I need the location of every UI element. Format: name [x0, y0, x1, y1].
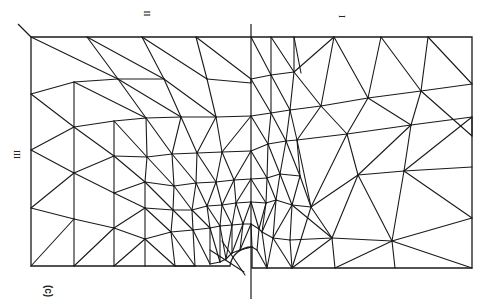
mesh-edge — [114, 193, 145, 208]
mesh-edge — [114, 118, 146, 121]
mesh-edge — [392, 241, 395, 268]
mesh-edge — [276, 200, 292, 205]
mesh-edge — [268, 113, 271, 144]
mesh-edge — [220, 205, 222, 226]
mesh-edge — [146, 118, 147, 157]
mesh-edge — [332, 238, 392, 241]
mesh-edge — [268, 144, 280, 174]
region-label-iii: III — [12, 150, 21, 159]
mesh-edge — [271, 72, 294, 75]
mesh-edge — [290, 72, 294, 110]
mesh-edge — [262, 232, 273, 238]
mesh-edge — [192, 206, 207, 210]
mesh-edge — [280, 174, 300, 176]
mesh-edge — [421, 37, 428, 91]
mesh-edge — [297, 106, 321, 140]
mesh-edge — [286, 140, 297, 141]
mesh-edge — [292, 176, 300, 205]
mesh-edge — [358, 125, 411, 175]
mesh-edge — [335, 241, 392, 268]
mesh-edge — [251, 116, 268, 144]
mesh-edge — [173, 186, 174, 210]
mesh-edge — [145, 182, 173, 210]
mesh-edge — [273, 238, 292, 268]
mesh-edge — [251, 113, 271, 116]
mesh-edge — [232, 224, 243, 225]
mesh-edge — [145, 182, 174, 186]
mesh-edge — [216, 182, 222, 205]
mesh-edge — [236, 179, 251, 203]
mesh-edge — [196, 182, 216, 183]
mesh-edge — [74, 127, 114, 156]
mesh-edge — [74, 173, 114, 193]
mesh-edge — [31, 37, 118, 79]
region-label-ii: II — [142, 11, 151, 17]
mesh-edge — [381, 37, 421, 91]
mesh-edge — [145, 208, 173, 210]
mesh-edge — [294, 37, 301, 73]
mesh-edge — [145, 239, 175, 266]
mesh-edge — [31, 219, 74, 266]
mesh-edge — [222, 151, 251, 152]
mesh-edge — [118, 79, 146, 118]
mesh-edge — [311, 134, 347, 207]
mesh-edge — [251, 151, 267, 178]
mesh-edge — [267, 144, 268, 178]
mesh-edge — [210, 228, 220, 262]
mesh-edge — [207, 182, 216, 206]
mesh-edge — [251, 144, 268, 151]
mesh-edge — [196, 153, 197, 183]
mesh-edge — [193, 230, 210, 264]
mesh-edge — [404, 171, 472, 218]
mesh-edge — [147, 154, 172, 157]
mesh-edge — [145, 232, 171, 239]
mesh-edge — [404, 167, 472, 171]
mesh-edge — [273, 205, 292, 238]
mesh-edge — [146, 117, 181, 118]
mesh-edge — [114, 208, 145, 228]
finite-element-mesh — [0, 0, 483, 307]
mesh-edge — [74, 219, 114, 228]
mesh-edge — [251, 37, 271, 75]
mesh-edge — [172, 154, 174, 186]
mesh-edge — [251, 178, 267, 179]
mesh-edge — [222, 152, 234, 180]
mesh-edge — [192, 210, 210, 228]
mesh-edge — [87, 37, 118, 79]
mesh-edge — [114, 182, 145, 193]
mesh-edge — [210, 226, 220, 228]
mesh-edge — [321, 98, 368, 106]
mesh-edge — [222, 203, 236, 205]
mesh-edge — [31, 94, 74, 127]
mesh-edge — [210, 262, 220, 264]
mesh-edge — [216, 180, 234, 182]
mesh-edge — [216, 117, 222, 152]
mesh-edge — [234, 180, 236, 203]
mesh-edge — [290, 106, 321, 110]
mesh-edge — [290, 240, 292, 268]
mesh-edge — [74, 228, 114, 266]
mesh-edge — [31, 173, 74, 208]
mesh-edge — [192, 183, 196, 210]
mesh-edge — [276, 174, 280, 200]
mesh-edge — [74, 156, 114, 173]
mesh-edge — [222, 180, 234, 205]
mesh-edge — [171, 230, 193, 232]
mesh-edge — [251, 202, 266, 203]
mesh-edge — [392, 171, 404, 241]
mesh-edge — [273, 238, 290, 240]
mesh-edge — [146, 118, 172, 154]
mesh-edge — [292, 238, 332, 268]
mesh-edge — [197, 153, 216, 182]
mesh-edge — [347, 98, 368, 134]
mesh-edge — [207, 205, 222, 206]
mesh-edge — [358, 175, 392, 241]
mesh-edge — [181, 117, 197, 153]
mesh-edge — [267, 178, 276, 200]
mesh-edge — [271, 110, 290, 113]
mesh-edge — [297, 134, 347, 140]
mesh-edge — [174, 186, 192, 210]
mesh-edge — [421, 91, 472, 136]
figure-caption: (c) — [43, 285, 53, 297]
mesh-edge — [145, 157, 147, 182]
